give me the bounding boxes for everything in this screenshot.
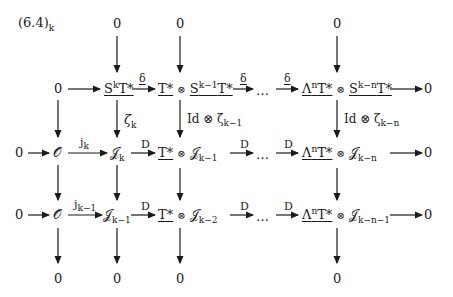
sym-O-row2: 𝒪 [53, 146, 61, 159]
zero-bottom-col4: 0 [333, 272, 341, 285]
zero-bottom-col3: 0 [176, 272, 184, 285]
diagram-title: (6.4)k [18, 16, 54, 29]
zero-row2-right: 0 [424, 146, 432, 159]
label-jk: jk [80, 137, 89, 148]
label-id-zeta-k1: Id ⊗ ζk−1 [187, 113, 242, 125]
label-id-zeta-kn: Id ⊗ ζk−n [344, 113, 399, 125]
sym-Jk: 𝒥k [110, 146, 124, 159]
label-D-row2-1: D [141, 139, 150, 150]
dots-row1: … [256, 84, 269, 97]
sym-LambdaJ-row2: ΛnT* ⊗ 𝒥k−n [302, 146, 377, 159]
zero-row3-right: 0 [424, 208, 432, 221]
zero-bottom-col2: 0 [113, 272, 121, 285]
sym-LambdaS-row1: ΛnT* ⊗ Sk−nT* [302, 82, 392, 95]
label-delta-2: δ [240, 73, 247, 84]
zero-top-col3: 0 [176, 17, 184, 30]
sym-LambdaJ-row3: ΛnT* ⊗ 𝒥k−n−1 [302, 208, 390, 221]
sym-TJ-row3: T* ⊗ 𝒥k−2 [158, 208, 218, 221]
zero-row3-left: 0 [15, 208, 23, 221]
label-jk1: jk−1 [74, 199, 96, 210]
sym-O-row3: 𝒪 [53, 208, 61, 221]
sym-Jk1: 𝒥k−1 [103, 208, 131, 221]
label-D-row3-3: D [284, 201, 293, 212]
zero-bottom-col1: 0 [54, 272, 62, 285]
label-D-row3-1: D [141, 201, 150, 212]
zero-top-col4: 0 [333, 17, 341, 30]
zero-top-col2: 0 [113, 17, 121, 30]
sym-SkT: SkT* [104, 82, 134, 95]
label-D-row2-3: D [284, 139, 293, 150]
label-delta-3: δ [284, 73, 291, 84]
dots-row3: … [256, 210, 269, 223]
zero-row2-left: 0 [15, 146, 23, 159]
dots-row2: … [256, 148, 269, 161]
zero-row1-left: 0 [54, 82, 62, 95]
sym-TJ-row2: T* ⊗ 𝒥k−1 [158, 146, 218, 159]
label-D-row2-2: D [240, 139, 249, 150]
label-D-row3-2: D [240, 201, 249, 212]
sym-Tstar-row1: T* ⊗ Sk−1T* [158, 82, 233, 95]
arrows-layer [0, 0, 453, 297]
label-zeta-k: ζk [124, 113, 137, 126]
label-delta-1: δ [139, 73, 146, 84]
zero-row1-right: 0 [424, 82, 432, 95]
